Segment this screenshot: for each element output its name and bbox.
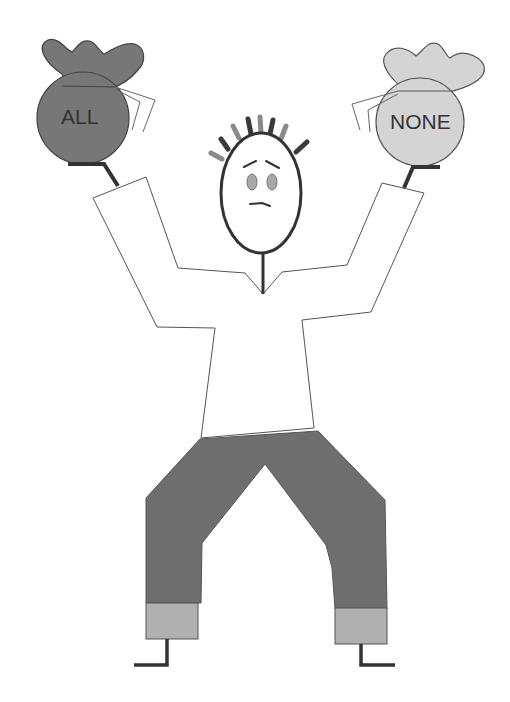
left-foot bbox=[134, 639, 167, 665]
left-money-bag: ALL bbox=[37, 39, 155, 164]
left-eye bbox=[247, 174, 257, 190]
right-eye bbox=[267, 174, 277, 190]
pants bbox=[146, 431, 387, 609]
right-bag-label: NONE bbox=[390, 110, 451, 133]
illustration-canvas: ALL NONE bbox=[0, 0, 510, 702]
head bbox=[221, 133, 301, 253]
right-money-bag: NONE bbox=[352, 43, 484, 166]
left-bag-label: ALL bbox=[61, 105, 98, 128]
right-foot bbox=[361, 644, 395, 665]
left-hand bbox=[68, 164, 118, 186]
right-hand bbox=[404, 167, 440, 188]
right-cuff bbox=[335, 608, 387, 644]
left-cuff bbox=[146, 603, 198, 639]
